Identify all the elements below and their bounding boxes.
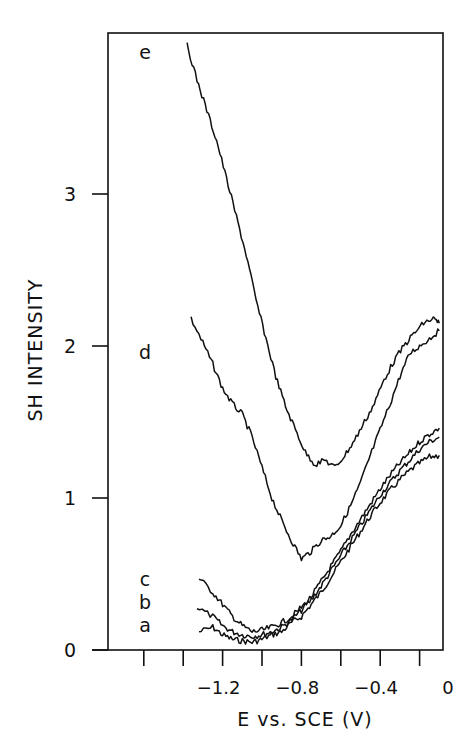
y-tick-label: 0	[64, 639, 76, 661]
y-tick-label: 1	[64, 487, 76, 509]
y-tick-label: 3	[64, 183, 76, 205]
y-tick-label: 2	[64, 335, 76, 357]
plot-frame	[108, 33, 443, 650]
curve-label-b: b	[139, 591, 151, 613]
curve-label-d: d	[139, 341, 151, 363]
series-a-line	[199, 454, 439, 644]
y-axis-label: SH INTENSITY	[24, 279, 46, 422]
x-tick-label: −0.8	[276, 677, 320, 698]
curve-label-a: a	[139, 614, 151, 636]
curve-label-c: c	[140, 568, 150, 590]
series-c-line	[199, 428, 439, 632]
series-d-line	[191, 317, 439, 561]
x-axis-ticks: −1.2−0.8−0.40	[92, 650, 454, 698]
curve-labels: abcde	[139, 41, 151, 636]
curve-label-e: e	[139, 41, 151, 63]
x-axis-label: E vs. SCE (V)	[237, 708, 372, 730]
y-axis-ticks: 0123	[64, 183, 108, 661]
chart: −1.2−0.8−0.40 0123 abcde E vs. SCE (V) S…	[0, 0, 474, 752]
x-tick-label: 0	[442, 677, 453, 698]
data-series	[187, 43, 439, 645]
series-b-line	[197, 437, 439, 638]
x-tick-label: −1.2	[197, 677, 241, 698]
x-tick-label: −0.4	[354, 677, 398, 698]
series-e-line	[187, 43, 439, 467]
